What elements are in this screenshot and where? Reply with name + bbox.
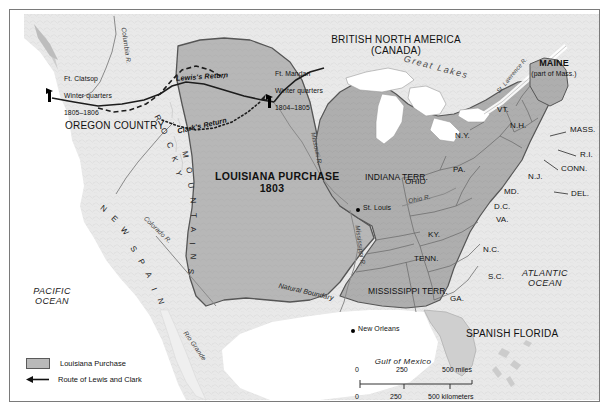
legend-item-route: Route of Lewis and Clark	[26, 375, 142, 384]
label-atlantic-ocean: ATLANTICOCEAN	[505, 268, 585, 288]
scale-km-500: 500 kilometers	[428, 393, 474, 400]
city-dot-new-orleans	[351, 329, 355, 333]
label-ft-mandan: Ft. Mandan Winter quarters 1804–1805	[263, 62, 323, 121]
map-frame: BRITISH NORTH AMERICA(CANADA) OREGON COU…	[9, 9, 600, 402]
scale-miles-250: 250	[396, 366, 408, 373]
label-rocky-mountains: R O C K Y M O U N T A I N S	[10, 10, 37, 297]
legend: Louisiana Purchase Route of Lewis and Cl…	[26, 358, 142, 384]
scale-km-250: 250	[390, 393, 402, 400]
scale-km-0: 0	[355, 393, 359, 400]
ft-clatsop-l3: 1805–1806	[64, 109, 99, 116]
legend-label-route: Route of Lewis and Clark	[58, 375, 142, 384]
ft-clatsop-l2: Winter quarters	[64, 92, 112, 99]
ft-clatsop-name: Ft. Clatsop	[64, 75, 98, 82]
city-dot-st-louis	[356, 208, 360, 212]
scale-bar-graphic	[358, 379, 518, 391]
ft-mandan-l3: 1804–1805	[275, 104, 310, 111]
scale-miles-0: 0	[355, 366, 359, 373]
scale-bar: 0 250 500 miles 0 250 500 kilometers	[358, 366, 518, 402]
ft-mandan-name: Ft. Mandan	[275, 70, 310, 77]
ft-mandan-l2: Winter quarters	[275, 87, 323, 94]
legend-item-purchase: Louisiana Purchase	[26, 358, 142, 369]
map-figure: BRITISH NORTH AMERICA(CANADA) OREGON COU…	[0, 0, 610, 412]
label-ft-clatsop: Ft. Clatsop Winter quarters 1805–1806	[52, 67, 112, 126]
label-new-orleans: New Orleans	[358, 325, 400, 333]
scale-miles-500: 500 miles	[442, 366, 472, 373]
legend-swatch-icon	[26, 358, 50, 369]
legend-arrow-icon	[26, 375, 50, 384]
legend-label-purchase: Louisiana Purchase	[60, 359, 126, 368]
label-st-louis: St. Louis	[363, 204, 391, 212]
